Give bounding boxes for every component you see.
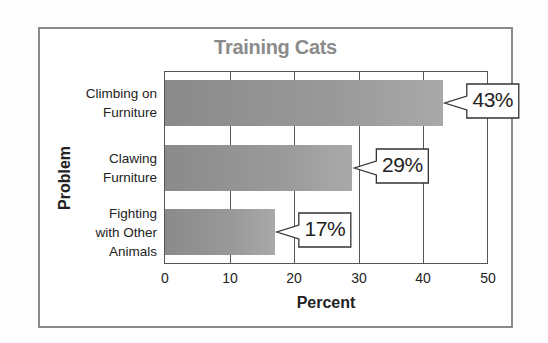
y-axis-label: Problem [56,146,74,210]
category-label: Climbing on Furniture [47,84,157,122]
category-label: Fighting with Other Animals [47,204,157,261]
x-tick-label: 10 [215,270,245,286]
x-tick-label: 30 [344,270,374,286]
x-tick-label: 50 [473,270,503,286]
x-tick-label: 20 [279,270,309,286]
x-axis-label: Percent [164,294,488,312]
x-tick-label: 0 [150,270,180,286]
value-label: 17% [299,217,351,241]
x-tick-label: 40 [408,270,438,286]
